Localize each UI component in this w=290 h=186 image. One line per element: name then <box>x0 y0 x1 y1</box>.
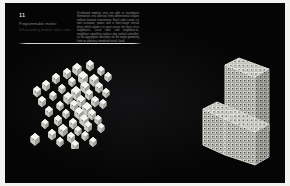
slide-root: 11 Programmable matter Self-assembling m… <box>0 0 290 186</box>
page-title: 11 <box>19 12 25 19</box>
cube-module <box>48 129 56 140</box>
cube-module <box>86 60 94 71</box>
header-divider <box>19 43 141 44</box>
cube-module <box>103 88 110 98</box>
slide-caption: Self-assembling modular robotic cubes <box>19 29 71 33</box>
cube-module <box>31 133 40 146</box>
slide-canvas: 11 Programmable matter Self-assembling m… <box>5 3 285 183</box>
cube-module <box>54 115 62 126</box>
body-paragraph: Distributed modular units are able to re… <box>77 12 139 43</box>
cube-cloud-canvas <box>15 51 145 149</box>
cube-module <box>105 72 112 82</box>
cube-cloud-group <box>31 60 112 149</box>
cube-module <box>57 101 64 111</box>
chair-geometry <box>203 58 269 165</box>
cube-module <box>59 124 68 137</box>
cube-module <box>42 80 50 91</box>
cube-module <box>69 77 76 87</box>
cube-module <box>91 96 99 107</box>
cube-module <box>50 91 57 101</box>
cube-module <box>33 86 41 97</box>
figure-unordered-cube-cloud <box>15 51 145 149</box>
cube-module <box>69 118 77 129</box>
cube-module <box>52 73 60 84</box>
figure-assembled-chair <box>191 47 283 169</box>
cube-module <box>90 137 97 147</box>
slide-subtitle: Programmable matter <box>19 22 57 27</box>
cube-module <box>63 109 70 119</box>
cube-module <box>57 137 64 147</box>
cube-module <box>75 126 82 136</box>
cube-module <box>42 119 49 129</box>
cube-module <box>63 68 71 79</box>
cube-module <box>98 66 105 76</box>
chair-canvas <box>191 47 283 169</box>
cube-module <box>59 84 66 94</box>
cube-module <box>38 96 46 107</box>
cube-module <box>82 131 89 141</box>
cube-module <box>100 99 107 109</box>
cube-module <box>45 106 53 117</box>
slide-header: 11 Programmable matter Self-assembling m… <box>19 12 271 42</box>
cube-module <box>98 123 105 133</box>
